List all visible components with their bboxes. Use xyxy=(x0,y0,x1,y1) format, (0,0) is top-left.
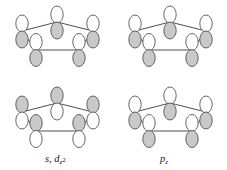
label-left-superscript: 2 xyxy=(62,156,66,164)
lobe-lower xyxy=(51,103,63,120)
lobe-upper xyxy=(16,96,28,113)
label-left-group: s, dz2 xyxy=(45,153,66,166)
panel-bottom-right xyxy=(129,87,212,148)
orbital-upper-left xyxy=(16,15,28,48)
lobe-upper xyxy=(16,15,28,32)
orbital-upper-right xyxy=(200,15,212,48)
lobe-upper xyxy=(87,96,99,113)
orbital-upper-left xyxy=(16,96,28,129)
orbital-upper-left xyxy=(129,96,141,129)
orbital-upper-left xyxy=(129,15,141,48)
label-right-orbital-set: pz xyxy=(159,153,168,166)
panel-bottom-left xyxy=(16,87,99,148)
lobe-lower xyxy=(200,31,212,48)
lobe-lower xyxy=(143,50,155,67)
panel-top-left xyxy=(16,6,99,67)
lobe-lower xyxy=(16,112,28,129)
lobe-lower xyxy=(87,31,99,48)
orbital-upper-right xyxy=(200,96,212,129)
lobe-upper xyxy=(30,34,42,51)
lobe-lower xyxy=(186,50,198,67)
orbital-upper-right xyxy=(87,15,99,48)
lobe-lower xyxy=(143,131,155,148)
diagram-canvas: s, dz2 pz xyxy=(0,0,227,170)
orbital-diagram-figure: s, dz2 pz xyxy=(0,0,227,170)
lobe-lower xyxy=(164,103,176,120)
lobe-lower xyxy=(73,131,85,148)
lobe-lower xyxy=(200,112,212,129)
lobe-lower xyxy=(129,112,141,129)
lobe-lower xyxy=(16,31,28,48)
lobe-lower xyxy=(30,131,42,148)
panel-top-right xyxy=(129,6,212,67)
orbital-apex xyxy=(51,87,63,120)
lobe-upper xyxy=(143,115,155,132)
lobe-lower xyxy=(51,22,63,39)
lobe-upper xyxy=(73,115,85,132)
lobe-upper xyxy=(51,87,63,104)
orbital-apex xyxy=(164,6,176,39)
orbital-apex xyxy=(51,6,63,39)
lobe-upper xyxy=(186,34,198,51)
lobe-lower xyxy=(73,50,85,67)
label-right-group: pz xyxy=(159,153,168,166)
lobe-lower xyxy=(30,50,42,67)
lobe-upper xyxy=(51,6,63,23)
lobe-lower xyxy=(186,131,198,148)
lobe-lower xyxy=(164,22,176,39)
orbital-upper-right xyxy=(87,96,99,129)
lobe-upper xyxy=(129,15,141,32)
label-left-orbital-set: s, dz2 xyxy=(45,153,66,166)
lobe-upper xyxy=(73,34,85,51)
lobe-upper xyxy=(200,15,212,32)
lobe-upper xyxy=(164,6,176,23)
lobe-upper xyxy=(164,87,176,104)
orbital-apex xyxy=(164,87,176,120)
lobe-upper xyxy=(143,34,155,51)
lobe-lower xyxy=(87,112,99,129)
lobe-lower xyxy=(129,31,141,48)
label-right-subscript: z xyxy=(164,158,168,166)
lobe-upper xyxy=(30,115,42,132)
lobe-upper xyxy=(129,96,141,113)
lobe-upper xyxy=(200,96,212,113)
lobe-upper xyxy=(87,15,99,32)
lobe-upper xyxy=(186,115,198,132)
